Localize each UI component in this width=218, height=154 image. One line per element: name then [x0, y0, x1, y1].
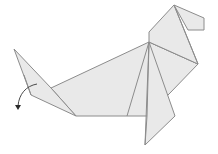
origami-seal-diagram	[0, 0, 218, 154]
